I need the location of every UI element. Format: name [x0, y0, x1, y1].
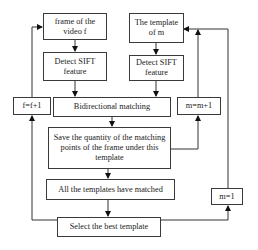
node-detect-sift-left: Detect SIFT feature: [43, 52, 107, 81]
node-frame: frame of the video f: [43, 13, 107, 40]
node-bidirectional-matching: Bidirectional matching: [53, 97, 171, 117]
node-m-reset: m=1: [211, 188, 243, 205]
node-all-templates-matched: All the templates have matched: [46, 179, 175, 200]
node-select-best-template: Select the best template: [57, 217, 161, 237]
node-template: The template of m: [129, 13, 184, 43]
node-detect-sift-right: Detect SIFT feature: [129, 55, 184, 81]
node-save-quantity: Save the quantity of the matching points…: [48, 127, 171, 169]
node-f-increment: f=f+1: [13, 97, 51, 115]
node-m-increment: m=m+1: [177, 97, 221, 115]
